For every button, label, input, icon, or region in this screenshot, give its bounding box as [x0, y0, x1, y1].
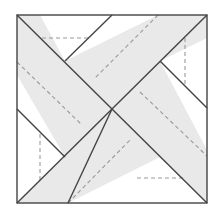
- quilt-block-diagram: [0, 0, 221, 212]
